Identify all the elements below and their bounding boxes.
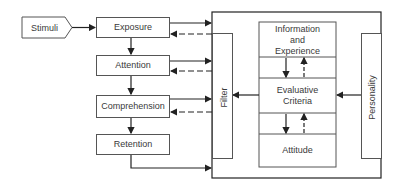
exposure-label: Exposure xyxy=(114,22,152,33)
retention-label: Retention xyxy=(114,139,153,150)
attention-node: Attention xyxy=(96,55,170,76)
information-experience-node: Information and Experience xyxy=(259,22,336,58)
evaluative-line: Evaluative xyxy=(277,85,319,96)
retention-node: Retention xyxy=(96,134,170,155)
stimuli-node: Stimuli xyxy=(22,17,67,38)
experience-line: Experience xyxy=(275,46,320,57)
attention-label: Attention xyxy=(115,60,151,71)
filter-node: Filter xyxy=(212,33,233,159)
attitude-label: Attitude xyxy=(282,145,313,156)
filter-label: Filter xyxy=(218,87,229,107)
stimuli-label: Stimuli xyxy=(31,23,58,33)
attitude-node: Attitude xyxy=(259,134,336,167)
evaluative-criteria-node: Evaluative Criteria xyxy=(259,78,336,113)
criteria-line: Criteria xyxy=(283,96,312,107)
exposure-node: Exposure xyxy=(96,17,170,38)
personality-node: Personality xyxy=(361,33,382,159)
information-line: Information xyxy=(275,24,320,35)
comprehension-node: Comprehension xyxy=(96,95,170,118)
comprehension-label: Comprehension xyxy=(101,101,165,112)
personality-label: Personality xyxy=(367,75,378,120)
and-line: and xyxy=(290,35,305,46)
